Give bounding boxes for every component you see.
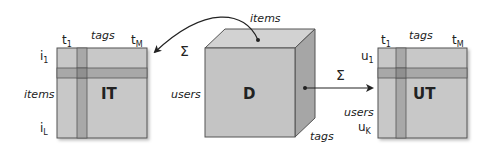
sum-symbol-left: Σ	[180, 43, 189, 59]
row-last-label: iL	[40, 121, 48, 137]
col-first-label: t1	[62, 33, 72, 49]
col-last-label: tM	[131, 33, 143, 49]
item-row-stripe	[57, 68, 147, 78]
col-axis-label: tags	[409, 29, 433, 42]
matrix-label-ut: UT	[413, 85, 436, 103]
col-axis-label: tags	[91, 29, 115, 42]
cube-side-face	[295, 29, 315, 137]
tensor-label-d: D	[243, 85, 255, 103]
col-last-label: tM	[452, 33, 464, 49]
tag-column-stripe	[77, 48, 87, 138]
intersection-cell	[77, 68, 87, 78]
tensor-aggregation-diagram: IT t1 tags tM i1 items iL D items users …	[0, 0, 493, 150]
row-axis-label: users	[344, 106, 374, 119]
row-axis-label: items	[24, 88, 55, 101]
matrix-label-it: IT	[101, 85, 118, 103]
users-axis-label: users	[171, 88, 201, 101]
tags-axis-label: tags	[310, 130, 334, 143]
row-first-label: i1	[40, 49, 48, 65]
sum-symbol-right: Σ	[336, 67, 345, 83]
row-first-label: u1	[361, 49, 374, 65]
item-tag-matrix: IT t1 tags tM i1 items iL	[24, 29, 147, 138]
items-axis-label: items	[250, 12, 281, 25]
col-first-label: t1	[381, 33, 391, 49]
row-last-label: uK	[358, 120, 372, 136]
tag-column-stripe	[396, 48, 406, 138]
intersection-cell	[396, 68, 406, 78]
user-row-stripe	[378, 68, 467, 78]
user-tag-matrix: UT t1 tags tM u1 users uK	[344, 29, 467, 138]
